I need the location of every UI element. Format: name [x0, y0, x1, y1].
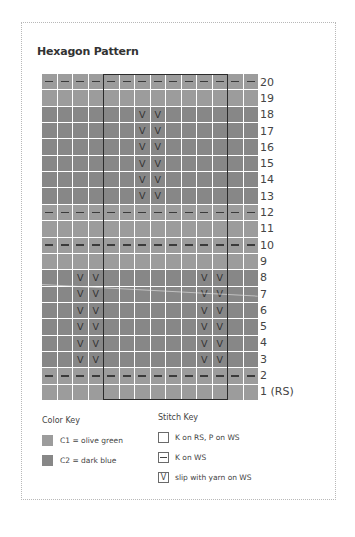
chart-cell — [58, 385, 73, 400]
dash-icon — [123, 81, 131, 83]
dash-icon — [200, 81, 208, 83]
chart-cell — [182, 336, 197, 351]
chart-cell — [58, 90, 73, 105]
chart-cell — [213, 74, 228, 89]
chart-cell — [244, 107, 259, 122]
chart-cell — [213, 188, 228, 203]
chart-cell — [42, 287, 57, 302]
slip-stitch-icon: V — [201, 273, 208, 283]
chart-cell — [182, 385, 197, 400]
chart-cell — [151, 90, 166, 105]
chart-cell — [197, 205, 212, 220]
chart-cell — [151, 238, 166, 253]
chart-cell: V — [151, 188, 166, 203]
chart-cell — [213, 107, 228, 122]
chart-cell — [42, 254, 57, 269]
row-number: 6 — [260, 302, 300, 318]
chart-cell — [228, 270, 243, 285]
chart-cell — [166, 352, 181, 367]
chart-cell — [228, 287, 243, 302]
chart-cell — [182, 270, 197, 285]
color-key-title: Color Key — [42, 416, 123, 425]
row-number: 5 — [260, 318, 300, 334]
dash-icon — [123, 244, 131, 246]
dash-icon — [61, 81, 69, 83]
chart-cell — [135, 368, 150, 383]
dash-icon — [154, 212, 162, 214]
chart-cell — [120, 205, 135, 220]
row-number: 18 — [260, 107, 300, 123]
chart-cell — [244, 172, 259, 187]
chart-cell — [182, 303, 197, 318]
slip-stitch-icon: V — [139, 126, 146, 136]
chart-cell — [228, 205, 243, 220]
dash-icon — [169, 81, 177, 83]
dash-icon — [216, 375, 224, 377]
dash-icon — [185, 244, 193, 246]
chart-cell — [73, 188, 88, 203]
dash-icon — [138, 81, 146, 83]
chart-cell — [197, 254, 212, 269]
chart-cell — [58, 287, 73, 302]
chart-cell — [244, 352, 259, 367]
chart-cell — [104, 238, 119, 253]
chart-cell — [213, 172, 228, 187]
chart-cell — [73, 74, 88, 89]
chart-cell — [42, 188, 57, 203]
slip-stitch-icon: V — [77, 289, 84, 299]
chart-cell — [89, 205, 104, 220]
chart-cell — [213, 139, 228, 154]
chart-cell — [135, 74, 150, 89]
chart-cell — [89, 90, 104, 105]
slip-stitch-icon: V — [93, 355, 100, 365]
dash-icon — [247, 81, 255, 83]
chart-cell — [166, 139, 181, 154]
chart-cell — [228, 90, 243, 105]
chart-cell — [104, 368, 119, 383]
chart-cell — [228, 238, 243, 253]
chart-cell: V — [151, 107, 166, 122]
slip-stitch-icon: V — [155, 175, 162, 185]
chart-cell — [166, 90, 181, 105]
chart-cell — [228, 74, 243, 89]
dash-icon — [138, 375, 146, 377]
chart-cell: V — [197, 352, 212, 367]
chart-cell — [73, 139, 88, 154]
chart-cell — [42, 303, 57, 318]
chart-cell — [58, 172, 73, 187]
chart-cell — [104, 205, 119, 220]
row-number: 14 — [260, 172, 300, 188]
chart-cell — [135, 238, 150, 253]
chart-cell — [135, 270, 150, 285]
chart-cell — [89, 254, 104, 269]
chart-cell — [166, 221, 181, 236]
chart-cell — [228, 385, 243, 400]
chart-cell — [135, 90, 150, 105]
chart-cell — [197, 156, 212, 171]
chart-cell — [166, 205, 181, 220]
chart-cell — [228, 303, 243, 318]
row-number: 2 — [260, 367, 300, 383]
row-number: 19 — [260, 90, 300, 106]
dash-icon — [247, 375, 255, 377]
chart-cell — [58, 188, 73, 203]
chart-cell — [182, 287, 197, 302]
chart-cell — [89, 156, 104, 171]
chart-cell — [213, 205, 228, 220]
chart-title: Hexagon Pattern — [37, 45, 139, 58]
row-number: 3 — [260, 351, 300, 367]
slip-stitch-icon: V — [217, 355, 224, 365]
dash-icon — [231, 212, 239, 214]
chart-cell — [42, 172, 57, 187]
chart-cell — [104, 254, 119, 269]
dash-icon — [138, 212, 146, 214]
dash-icon — [92, 375, 100, 377]
chart-cell — [42, 205, 57, 220]
chart-cell — [104, 287, 119, 302]
dash-icon — [216, 212, 224, 214]
chart-cell: V — [73, 303, 88, 318]
chart-cell — [58, 221, 73, 236]
dash-icon — [185, 212, 193, 214]
chart-cell — [166, 319, 181, 334]
chart-cell: V — [213, 270, 228, 285]
